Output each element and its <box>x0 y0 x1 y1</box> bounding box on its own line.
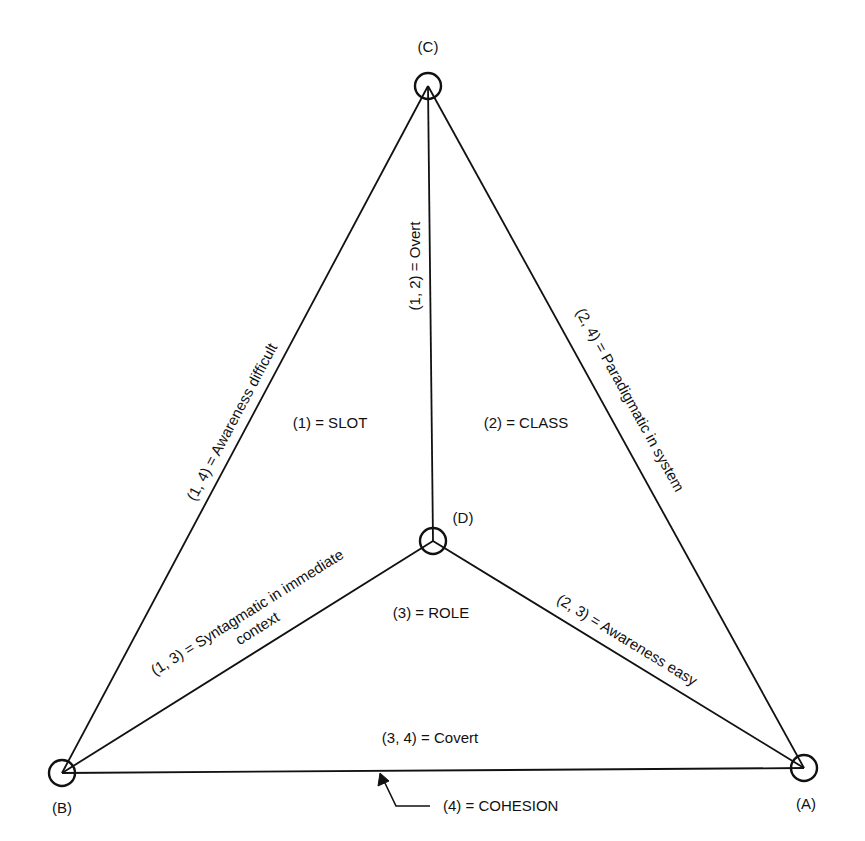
cohesion-label: (4) = COHESION <box>443 797 558 815</box>
edge-d-a <box>433 541 804 768</box>
node-b-label: (B) <box>52 799 72 817</box>
node-a-label: (A) <box>796 795 816 813</box>
class-label: (2) = CLASS <box>484 414 569 432</box>
edge-c-d-label: (1, 2) = Overt <box>406 222 424 311</box>
role-label: (3) = ROLE <box>393 604 469 622</box>
node-c-label: (C) <box>418 38 439 56</box>
diagram-canvas <box>0 0 865 841</box>
edge-c-d <box>428 86 433 541</box>
edge-c-b <box>62 86 428 773</box>
slot-label: (1) = SLOT <box>293 414 368 432</box>
edge-b-a <box>62 768 804 773</box>
cohesion-arrow <box>378 773 430 806</box>
edge-d-b <box>62 541 433 773</box>
edge-b-a-label: (3, 4) = Covert <box>382 729 478 747</box>
node-d-label: (D) <box>453 509 474 527</box>
